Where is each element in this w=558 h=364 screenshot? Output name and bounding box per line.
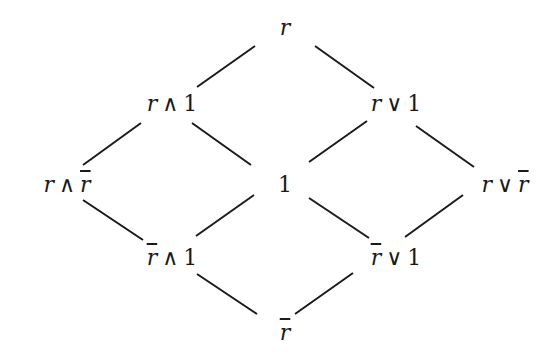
node-rbar-and-1: r∧1 — [147, 247, 198, 269]
edge-top-r_or_1 — [315, 46, 374, 88]
node-r-or-rbar: r∨r — [481, 174, 528, 196]
edge-rbar_or_1-bottom — [295, 273, 353, 314]
meet-operator: ∧ — [162, 91, 178, 116]
node-one: 1 — [278, 174, 292, 196]
node-term-b: 1 — [407, 245, 421, 270]
edge-rbar_and_1-bottom — [197, 274, 257, 314]
node-rbar-or-1: r∨1 — [371, 247, 422, 269]
node-r-and-1: r∧1 — [147, 93, 198, 115]
edge-r_or_1-r_or_rbar — [416, 126, 474, 167]
node-term-a: r — [371, 245, 382, 270]
node-term-a: r — [280, 320, 291, 345]
node-term-b: 1 — [407, 91, 421, 116]
meet-operator: ∧ — [59, 172, 75, 197]
node-r-and-rbar: r∧r — [43, 174, 90, 196]
join-operator: ∨ — [497, 172, 513, 197]
meet-operator: ∧ — [162, 245, 178, 270]
node-term-a: 1 — [278, 172, 292, 197]
lattice-diagram: rr∧1r∨1r∧r1r∨rr∧1r∨1r — [0, 0, 558, 364]
edge-one-rbar_or_1 — [309, 198, 369, 238]
edge-r_or_rbar-rbar_or_1 — [405, 195, 463, 237]
node-r-or-1: r∨1 — [371, 93, 422, 115]
node-term-a: r — [481, 172, 492, 197]
node-term-b: r — [518, 172, 529, 197]
node-term-b: 1 — [183, 245, 197, 270]
node-term-b: 1 — [183, 91, 197, 116]
node-term-a: r — [371, 91, 382, 116]
join-operator: ∨ — [386, 91, 402, 116]
edge-r_and_rbar-rbar_and_1 — [83, 200, 143, 240]
edge-top-r_and_1 — [197, 46, 255, 87]
node-term-a: r — [280, 15, 291, 40]
node-bottom: r — [280, 322, 291, 344]
edge-r_and_1-one — [192, 123, 251, 165]
edge-one-rbar_and_1 — [196, 195, 254, 236]
node-term-b: r — [80, 172, 91, 197]
node-top: r — [280, 17, 291, 39]
node-term-a: r — [43, 172, 54, 197]
node-term-a: r — [147, 91, 158, 116]
edge-r_or_1-one — [309, 121, 367, 162]
edge-r_and_1-r_and_rbar — [83, 123, 141, 165]
node-term-a: r — [147, 245, 158, 270]
join-operator: ∨ — [386, 245, 402, 270]
